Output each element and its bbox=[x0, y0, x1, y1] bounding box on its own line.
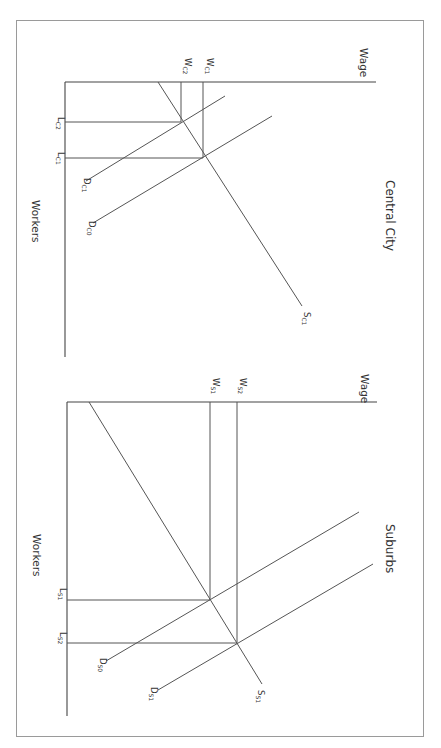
labor-market-diagram: Central City Wage Workers WC1 WC2 LC2 LC… bbox=[0, 0, 441, 748]
suburbs-ws2-label: WS2 bbox=[237, 378, 248, 394]
suburbs-panel: Suburbs Wage Workers WS2 WS1 LS1 LS2 SS1… bbox=[31, 374, 397, 716]
central-lc1-label: LC1 bbox=[55, 152, 66, 165]
central-city-title: Central City bbox=[383, 180, 397, 251]
suburbs-demand-0-label: DS0 bbox=[97, 658, 108, 672]
central-demand-0-label: DC0 bbox=[86, 221, 97, 236]
central-supply-label: SC1 bbox=[301, 312, 312, 326]
suburbs-demand-1-label: DS1 bbox=[148, 687, 159, 701]
suburbs-ws1-label: WS1 bbox=[210, 378, 221, 394]
suburbs-demand-curve-1 bbox=[158, 564, 373, 690]
central-wc2-label: WC2 bbox=[182, 58, 193, 75]
suburbs-supply-label: SS1 bbox=[255, 690, 266, 703]
suburbs-title: Suburbs bbox=[383, 524, 397, 573]
central-supply-curve bbox=[158, 82, 302, 306]
suburbs-wage-axis-label: Wage bbox=[359, 374, 371, 403]
suburbs-workers-axis-label: Workers bbox=[31, 534, 43, 576]
central-workers-axis-label: Workers bbox=[30, 200, 42, 242]
suburbs-demand-curve-0 bbox=[106, 512, 359, 661]
central-wc1-label: WC1 bbox=[204, 58, 215, 75]
suburbs-ls2-label: LS2 bbox=[57, 632, 68, 645]
central-demand-curve-1 bbox=[86, 96, 225, 181]
central-wage-axis-label: Wage bbox=[358, 48, 370, 77]
central-demand-1-label: DC1 bbox=[81, 178, 92, 193]
central-city-panel: Central City Wage Workers WC1 WC2 LC2 LC… bbox=[30, 48, 397, 357]
central-lc2-label: LC2 bbox=[55, 117, 66, 130]
suburbs-ls1-label: LS1 bbox=[57, 588, 68, 601]
central-demand-curve-0 bbox=[93, 116, 272, 223]
suburbs-supply-curve bbox=[89, 402, 262, 684]
